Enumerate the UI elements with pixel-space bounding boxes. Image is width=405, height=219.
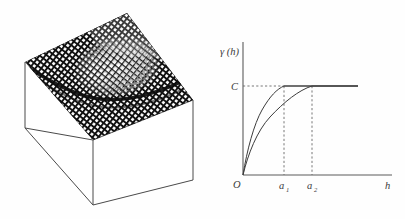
range-1-label: a bbox=[279, 180, 284, 191]
x-axis-label: h bbox=[385, 180, 390, 191]
range-2-label: a bbox=[307, 180, 312, 191]
surface-svg bbox=[0, 0, 202, 219]
origin-label: O bbox=[233, 179, 241, 190]
panel-variogram: γ (h) C O a 1 a 2 h bbox=[202, 0, 405, 219]
variogram-svg: γ (h) C O a 1 a 2 h bbox=[202, 0, 405, 219]
y-axis-label: γ (h) bbox=[220, 46, 240, 58]
range-2-subscript: 2 bbox=[314, 186, 318, 193]
panel-3d-surface bbox=[0, 0, 202, 219]
sill-label: C bbox=[231, 81, 239, 92]
variogram-curve-range-a2 bbox=[243, 86, 358, 175]
range-1-subscript: 1 bbox=[286, 186, 289, 193]
figure-root: γ (h) C O a 1 a 2 h bbox=[0, 0, 405, 219]
